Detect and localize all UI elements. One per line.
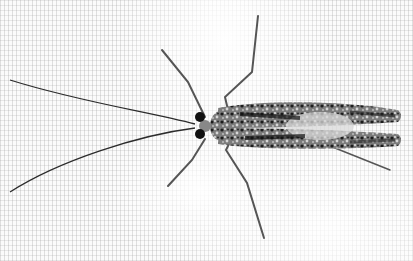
body xyxy=(195,111,232,141)
eye-icon xyxy=(195,112,205,122)
insect-illustration xyxy=(0,0,413,261)
wings xyxy=(218,102,401,149)
photo xyxy=(0,0,413,261)
eye-icon xyxy=(195,129,205,139)
antennae xyxy=(10,80,195,192)
